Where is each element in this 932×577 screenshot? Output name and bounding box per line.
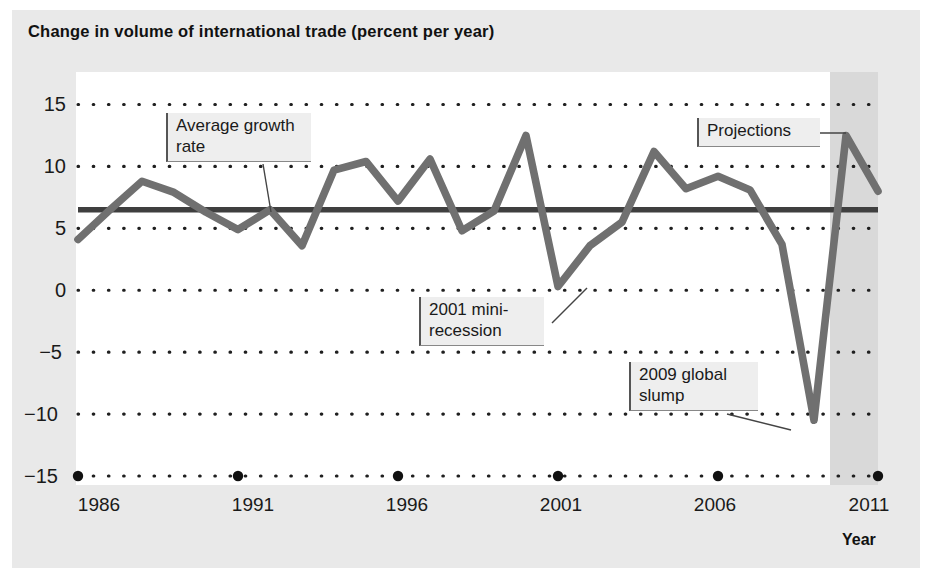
trade-volume-line <box>78 135 878 420</box>
callout-global-slump-2009: 2009 global slump <box>629 362 758 411</box>
chart-svg <box>0 0 932 577</box>
x-tick-dot-1991 <box>233 471 243 481</box>
x-tick-dot-1986 <box>73 471 83 481</box>
y-axis-label-0: 0 <box>20 279 66 302</box>
leader-global-slump <box>727 414 791 430</box>
projection-band <box>830 72 878 485</box>
x-axis-label-2001: 2001 <box>521 494 601 516</box>
x-tick-dot-2006 <box>713 471 723 481</box>
callout-mini-recession-2001: 2001 mini- recession <box>419 297 544 346</box>
x-axis-label-2011: 2011 <box>829 494 909 516</box>
x-tick-dot-2011 <box>873 471 883 481</box>
y-axis-label-neg5: −5 <box>16 341 62 364</box>
x-axis-title: Year <box>842 531 876 549</box>
leader-average-growth-rate <box>263 164 271 212</box>
y-axis-label-neg10: −10 <box>12 403 58 426</box>
y-axis-label-neg15: −15 <box>12 465 58 488</box>
y-axis-label-10: 10 <box>20 155 66 178</box>
y-axis-label-15: 15 <box>20 93 66 116</box>
callout-projections: Projections <box>697 118 820 147</box>
x-tick-dot-2001 <box>553 471 563 481</box>
x-axis-label-2006: 2006 <box>675 494 755 516</box>
y-axis-label-5: 5 <box>20 217 66 240</box>
x-axis-label-1986: 1986 <box>59 494 139 516</box>
callout-average-growth-rate: Average growth rate <box>166 113 311 162</box>
x-axis-label-1991: 1991 <box>213 494 293 516</box>
x-tick-dot-1996 <box>393 471 403 481</box>
x-axis-label-1996: 1996 <box>367 494 447 516</box>
leader-mini-recession <box>552 288 587 323</box>
